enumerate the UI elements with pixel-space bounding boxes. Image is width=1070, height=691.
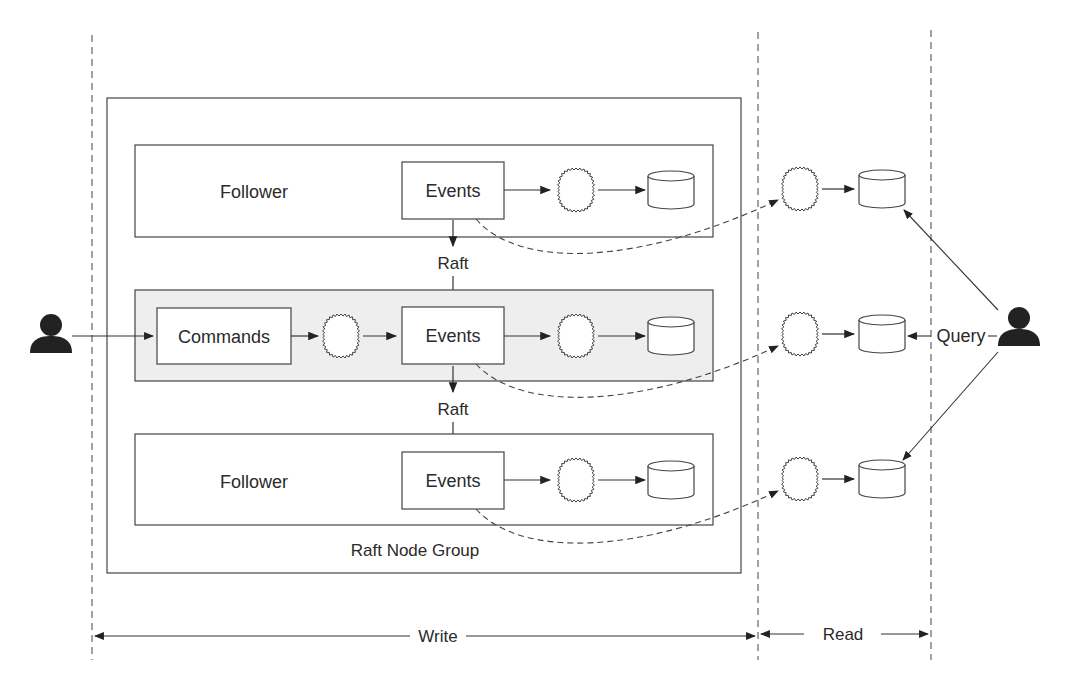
projector-icon [782,312,819,356]
follower-label: Follower [220,472,288,492]
database-icon [648,461,694,499]
events-label: Events [425,326,480,346]
writer-person-icon [30,314,72,353]
database-icon [648,317,694,355]
cqrs-raft-diagram: Raft Node Group Follower Events Raft Com… [0,0,1070,691]
raft-label-1: Raft [437,254,468,273]
read-span: Read [761,625,928,644]
events-label: Events [425,471,480,491]
write-label: Write [418,627,457,646]
read-database-icon [859,315,905,353]
read-side [782,167,906,501]
database-icon [648,171,694,209]
processor-icon [323,314,360,358]
leader-node: Commands Events [135,290,713,381]
read-database-icon [859,460,905,498]
query-label: Query [936,326,985,346]
processor-icon [558,168,595,212]
raft-node-group-label: Raft Node Group [351,541,480,560]
follower-label: Follower [220,182,288,202]
projector-icon [782,167,819,211]
processor-icon [558,314,595,358]
events-label: Events [425,181,480,201]
read-database-icon [859,170,905,208]
write-span: Write [95,627,755,646]
query-arrow-bottom [903,352,998,460]
follower-node-top: Follower Events [135,145,713,237]
follower-node-bottom: Follower Events [135,434,713,525]
processor-icon [558,458,595,502]
projector-icon [782,457,819,501]
read-label: Read [823,625,864,644]
reader-person-icon [998,307,1040,346]
query-arrow-top [904,210,998,310]
raft-label-2: Raft [437,400,468,419]
commands-label: Commands [178,327,270,347]
